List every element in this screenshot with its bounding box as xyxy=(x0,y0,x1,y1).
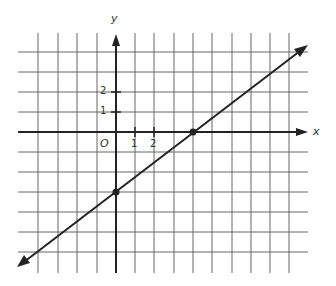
y-axis-arrow-icon xyxy=(112,34,120,46)
x-axis-label: x xyxy=(313,125,320,138)
coordinate-graph xyxy=(0,0,336,286)
ticks xyxy=(111,92,154,137)
line-arrow-bottom-icon xyxy=(17,255,30,267)
x-tick-label-1: 1 xyxy=(131,138,137,149)
x-axis xyxy=(18,128,308,136)
plotted-line xyxy=(17,45,308,267)
y-tick-label-1: 1 xyxy=(100,105,106,116)
point-x-intercept xyxy=(190,129,197,136)
x-axis-arrow-icon xyxy=(296,128,308,136)
y-axis xyxy=(112,34,120,273)
point-y-intercept xyxy=(113,189,120,196)
y-tick-label-2: 2 xyxy=(100,85,106,96)
grid xyxy=(18,33,308,273)
y-axis-label: y xyxy=(111,12,118,25)
x-tick-label-2: 2 xyxy=(150,138,156,149)
origin-label: O xyxy=(100,137,109,150)
